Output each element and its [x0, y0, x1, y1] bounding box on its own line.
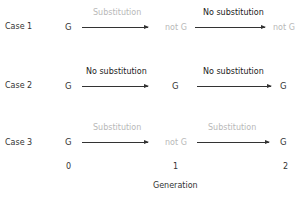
case-1-gen-2-node: not G [273, 24, 295, 32]
case-2-edge-1-label: No substitution [86, 68, 147, 76]
case-1-edge-1-arrow-icon [82, 27, 148, 28]
case-2-gen-0-node: G [65, 82, 72, 91]
generation-tick-1: 1 [173, 163, 178, 171]
case-3-edge-2-arrow-icon [197, 142, 269, 143]
case-1-edge-2-label: No substitution [203, 9, 264, 17]
case-3-label: Case 3 [5, 139, 32, 147]
case-1-gen-1-node: not G [165, 24, 187, 32]
case-1-edge-1-label: Substitution [93, 9, 141, 17]
case-2-gen-1-node: G [172, 82, 179, 91]
case-1-gen-0-node: G [65, 23, 72, 32]
case-2-edge-2-label: No substitution [203, 68, 264, 76]
case-3-gen-1-node: not G [165, 139, 187, 147]
generation-tick-2: 2 [283, 163, 288, 171]
case-2-edge-2-arrow-icon [197, 86, 271, 87]
case-2-gen-2-node: G [280, 82, 287, 91]
generation-tick-0: 0 [66, 163, 71, 171]
case-3-edge-2-label: Substitution [208, 124, 256, 132]
case-1-edge-2-arrow-icon [195, 27, 265, 28]
case-2-label: Case 2 [5, 82, 32, 90]
case-3-edge-1-label: Substitution [93, 124, 141, 132]
case-1-label: Case 1 [5, 23, 32, 31]
case-3-edge-1-arrow-icon [82, 142, 148, 143]
case-3-gen-0-node: G [65, 138, 72, 147]
case-3-gen-2-node: G [280, 138, 287, 147]
generation-axis-title: Generation [153, 182, 198, 190]
case-2-edge-1-arrow-icon [82, 86, 148, 87]
